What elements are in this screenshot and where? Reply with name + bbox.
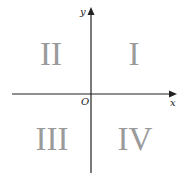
y-axis-label: y bbox=[79, 6, 86, 17]
quadrant-iv-label: IV bbox=[118, 121, 153, 157]
y-axis bbox=[88, 7, 95, 173]
origin-label: O bbox=[81, 96, 89, 107]
quadrant-iii-label: III bbox=[36, 121, 69, 157]
coordinate-plane: y x O II I III IV bbox=[0, 0, 184, 181]
quadrant-i-label: I bbox=[129, 36, 140, 72]
y-axis-arrow-icon bbox=[88, 7, 95, 15]
x-axis bbox=[12, 91, 177, 98]
quadrant-ii-label: II bbox=[40, 36, 62, 72]
x-axis-label: x bbox=[170, 97, 176, 108]
